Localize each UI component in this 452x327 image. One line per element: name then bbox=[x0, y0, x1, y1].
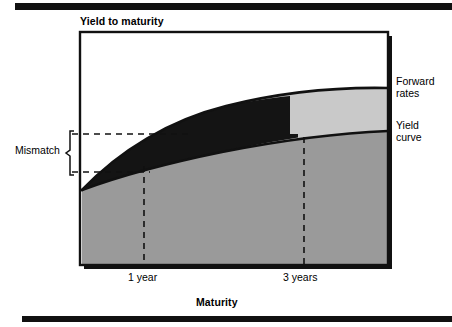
x-axis-title: Maturity bbox=[196, 297, 238, 309]
x-tick-label-1-year: 1 year bbox=[128, 272, 157, 284]
forward-rates-label: Forward rates bbox=[396, 76, 435, 100]
yield-curve-label: Yield curve bbox=[396, 120, 422, 144]
y-axis-title: Yield to maturity bbox=[80, 16, 164, 28]
chart-plot-svg bbox=[0, 0, 452, 327]
chart-figure: Yield to maturity Maturity Forward rates… bbox=[0, 0, 452, 327]
x-tick-label-3-years: 3 years bbox=[283, 272, 317, 284]
mismatch-brace bbox=[66, 131, 74, 175]
bottom-rule-bar bbox=[22, 316, 452, 322]
mismatch-label: Mismatch bbox=[15, 145, 60, 157]
